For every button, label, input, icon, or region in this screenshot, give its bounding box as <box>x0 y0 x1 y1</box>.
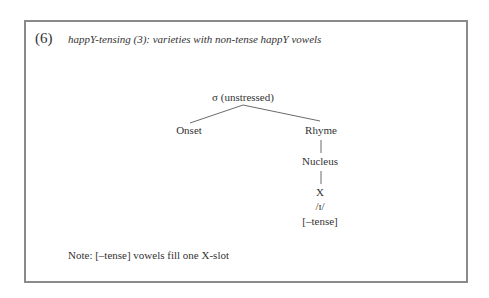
tree-node-nucleus: Nucleus <box>302 155 338 167</box>
tree-node-rhyme: Rhyme <box>305 124 337 136</box>
note-text: Note: [–tense] vowels fill one X-slot <box>68 249 229 261</box>
tree-feature: [–tense] <box>302 215 337 227</box>
tree-node-onset: Onset <box>176 124 202 136</box>
tree-vowel: /ɪ/ <box>315 200 324 212</box>
tree-node-x-slot: X <box>316 186 324 198</box>
tree-root-sigma: σ (unstressed) <box>212 91 274 103</box>
